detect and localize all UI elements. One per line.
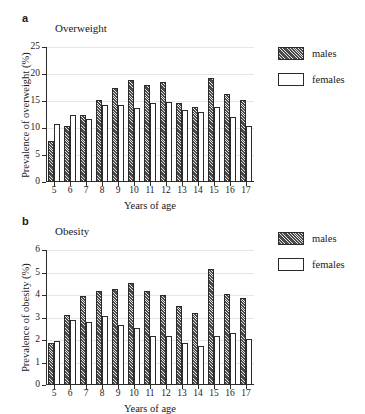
x-axis-tick-label: 12 (161, 186, 171, 196)
x-axis-tick-label: 5 (52, 186, 57, 196)
x-axis-tick-label: 13 (177, 186, 187, 196)
plot-area-overweight: 0510152025567891011121314151617 (46, 47, 254, 182)
y-axis-tick (42, 101, 46, 102)
legend-label-males: males (312, 46, 337, 61)
bar-females-age-15 (214, 336, 220, 386)
x-axis-tick-label: 6 (68, 389, 73, 399)
panel-overweight: a Overweight Prevalence of overweight (%… (0, 0, 365, 203)
x-axis-tick-label: 11 (145, 186, 154, 196)
x-axis-tick-label: 14 (193, 186, 203, 196)
x-axis-title-obesity: Years of age (46, 403, 254, 414)
plot-area-obesity: 0123456567891011121314151617 (46, 250, 254, 385)
bar-females-age-9 (118, 105, 124, 182)
bar-females-age-8 (102, 316, 108, 385)
x-axis-tick-label: 16 (225, 389, 235, 399)
y-axis-tick-label: 25 (31, 42, 41, 52)
gridline (47, 47, 254, 48)
y-axis-tick (42, 295, 46, 296)
legend-swatch-females-icon (278, 258, 304, 271)
y-axis-tick (42, 318, 46, 319)
bar-females-age-12 (166, 102, 172, 182)
y-axis-tick-label: 4 (35, 290, 40, 300)
legend-swatch-males-icon (278, 232, 304, 245)
panel-title-obesity: Obesity (55, 225, 89, 237)
x-axis-tick-label: 7 (84, 389, 89, 399)
panel-title-overweight: Overweight (55, 22, 107, 34)
x-axis-tick-label: 16 (225, 186, 235, 196)
y-axis-tick (42, 155, 46, 156)
legend-label-females: females (312, 257, 345, 272)
y-axis-tick (42, 47, 46, 48)
y-axis-tick-label: 2 (35, 335, 40, 345)
y-axis-tick-label: 3 (35, 313, 40, 323)
y-axis-tick-label: 20 (31, 69, 41, 79)
x-axis-tick-label: 7 (84, 186, 89, 196)
bar-females-age-7 (86, 322, 92, 385)
bar-females-age-5 (54, 341, 60, 385)
y-axis-tick-label: 0 (35, 177, 40, 187)
y-axis-tick (42, 250, 46, 251)
y-axis-tick (42, 128, 46, 129)
legend-label-males: males (312, 231, 337, 246)
bar-females-age-16 (230, 333, 236, 385)
bar-females-age-15 (214, 107, 220, 182)
bar-females-age-8 (102, 105, 108, 182)
bar-females-age-5 (54, 124, 60, 182)
y-axis-tick (42, 340, 46, 341)
bar-females-age-14 (198, 346, 204, 385)
bar-females-age-16 (230, 117, 236, 182)
y-axis-tick-label: 10 (31, 123, 41, 133)
legend-label-females: females (312, 72, 345, 87)
x-axis-tick-label: 8 (100, 389, 105, 399)
x-axis-tick-label: 10 (129, 186, 139, 196)
bar-females-age-17 (246, 126, 252, 182)
y-axis-tick-label: 5 (35, 150, 40, 160)
bar-females-age-7 (86, 119, 92, 182)
legend-swatch-males-icon (278, 47, 304, 60)
y-axis-tick-label: 1 (35, 358, 40, 368)
y-axis-title-overweight: Prevalence of overweight (%) (20, 52, 31, 178)
bar-females-age-6 (70, 320, 76, 385)
x-axis-tick-label: 8 (100, 186, 105, 196)
bar-females-age-9 (118, 325, 124, 385)
y-axis-tick-label: 5 (35, 268, 40, 278)
bar-females-age-13 (182, 343, 188, 385)
y-axis-tick-label: 6 (35, 245, 40, 255)
x-axis-tick-label: 15 (209, 389, 219, 399)
gridline (47, 250, 254, 251)
x-axis-tick-label: 9 (116, 186, 121, 196)
bar-females-age-10 (134, 328, 140, 385)
bar-females-age-6 (70, 115, 76, 183)
x-axis-tick-label: 10 (129, 389, 139, 399)
y-axis-title-obesity: Prevalence of obesity (%) (20, 263, 31, 372)
legend-swatch-females-icon (278, 73, 304, 86)
y-axis-tick-label: 0 (35, 380, 40, 390)
x-axis-tick-label: 5 (52, 389, 57, 399)
x-axis-tick-label: 17 (241, 186, 251, 196)
bar-females-age-11 (150, 336, 156, 386)
bar-females-age-10 (134, 108, 140, 182)
panel-obesity: b Obesity Prevalence of obesity (%) 0123… (0, 203, 365, 406)
x-axis-tick-label: 17 (241, 389, 251, 399)
x-axis-tick-label: 11 (145, 389, 154, 399)
gridline (47, 74, 254, 75)
bar-females-age-13 (182, 110, 188, 182)
x-axis-tick-label: 13 (177, 389, 187, 399)
y-axis-tick (42, 385, 46, 386)
y-axis-tick (42, 363, 46, 364)
y-axis-tick (42, 182, 46, 183)
panel-letter-a: a (22, 12, 28, 24)
x-axis-tick-label: 9 (116, 389, 121, 399)
y-axis-tick (42, 273, 46, 274)
x-axis-tick-label: 6 (68, 186, 73, 196)
gridline (47, 273, 254, 274)
panel-letter-b: b (22, 215, 29, 227)
bar-females-age-14 (198, 112, 204, 182)
y-axis-tick (42, 74, 46, 75)
x-axis-tick-label: 15 (209, 186, 219, 196)
bar-females-age-11 (150, 103, 156, 182)
x-axis-tick-label: 12 (161, 389, 171, 399)
bar-females-age-12 (166, 336, 172, 386)
x-axis-tick-label: 14 (193, 389, 203, 399)
y-axis-tick-label: 15 (31, 96, 41, 106)
